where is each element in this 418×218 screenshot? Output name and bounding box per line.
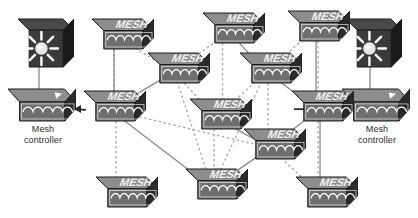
mesh-node-label: MESH: [114, 18, 150, 30]
mesh-node-4[interactable]: MESH: [148, 52, 210, 84]
mesh-node-1[interactable]: MESH: [92, 18, 154, 50]
mesh-node-label: MESH: [118, 176, 154, 188]
mesh-node-2[interactable]: MESH: [203, 12, 265, 44]
mesh-node-label: MESH: [212, 98, 248, 110]
mesh-network-diagram: MESH MESH MESH MESH MESH: [0, 0, 418, 218]
mesh-node-label: MESH: [262, 52, 298, 64]
access-point-left[interactable]: [18, 18, 74, 68]
mesh-node-5[interactable]: MESH: [240, 52, 302, 84]
mesh-node-10[interactable]: MESH: [96, 176, 158, 208]
access-point-right[interactable]: [346, 18, 402, 68]
mesh-node-label: MESH: [318, 176, 354, 188]
mesh-node-6[interactable]: MESH: [84, 90, 146, 122]
mesh-controller-right-label: Mesh controller: [341, 124, 413, 145]
mesh-node-7[interactable]: MESH: [190, 98, 252, 130]
mesh-node-label: MESH: [266, 128, 302, 140]
mesh-node-9[interactable]: MESH: [244, 128, 306, 160]
mesh-node-label: MESH: [106, 90, 142, 102]
mesh-node-8[interactable]: MESH: [292, 90, 354, 122]
mesh-node-label: MESH: [208, 168, 244, 180]
mesh-controller-left-label: Mesh controller: [7, 124, 79, 145]
mesh-node-3[interactable]: MESH: [288, 10, 350, 42]
mesh-node-11[interactable]: MESH: [186, 168, 248, 200]
mesh-controller-left[interactable]: [8, 88, 76, 122]
mesh-node-label: MESH: [225, 12, 261, 24]
mesh-node-label: MESH: [310, 10, 346, 22]
mesh-node-label: MESH: [170, 52, 206, 64]
mesh-node-12[interactable]: MESH: [296, 176, 358, 208]
mesh-node-label: MESH: [314, 90, 350, 102]
